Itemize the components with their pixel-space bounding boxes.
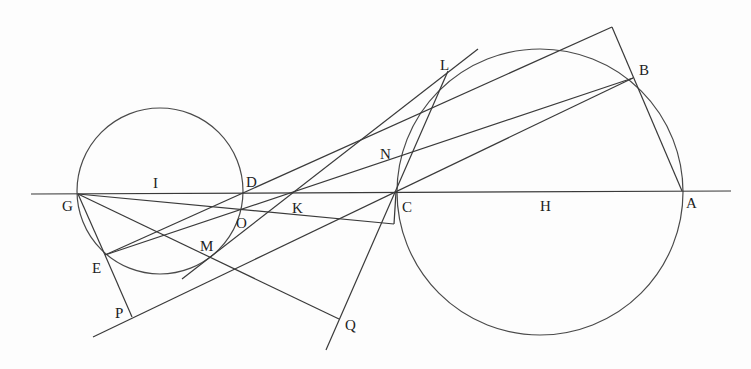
point-label-Q: Q <box>345 317 356 333</box>
point-label-A: A <box>686 195 697 211</box>
line-P-C-B <box>93 78 633 337</box>
line-Q-C-L <box>326 71 448 350</box>
line-C-foot <box>394 192 396 224</box>
segments-group <box>31 27 731 350</box>
point-label-D: D <box>246 174 257 190</box>
point-label-N: N <box>380 146 391 162</box>
point-label-L: L <box>440 57 449 73</box>
point-label-P: P <box>115 305 123 321</box>
point-label-O: O <box>236 215 247 231</box>
geometry-diagram: GIDKCHAEPMONLBQ <box>0 0 751 369</box>
line-GA <box>31 191 731 194</box>
point-label-I: I <box>153 175 158 191</box>
point-label-K: K <box>292 200 303 216</box>
point-label-H: H <box>540 198 551 214</box>
point-label-M: M <box>200 238 213 254</box>
line-GE <box>78 194 105 255</box>
tangent-M-K-L <box>182 49 478 279</box>
line-apex-B-A <box>612 27 682 191</box>
point-label-G: G <box>62 198 73 214</box>
line-E-K-N-B <box>105 78 633 255</box>
point-label-E: E <box>92 260 101 276</box>
point-label-C: C <box>402 199 412 215</box>
point-label-B: B <box>639 62 649 78</box>
diagram-svg: GIDKCHAEPMONLBQ <box>0 0 751 369</box>
labels-group: GIDKCHAEPMONLBQ <box>62 57 697 333</box>
